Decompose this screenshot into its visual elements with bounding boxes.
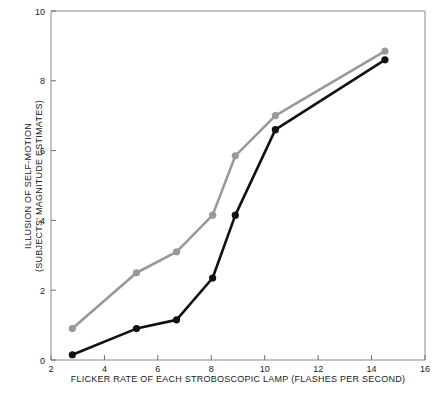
- y-tick-label: 10: [35, 7, 45, 17]
- y-tick-label: 0: [40, 356, 45, 366]
- data-point-marker: [133, 269, 140, 276]
- y-tick-label: 2: [40, 286, 45, 296]
- data-point-marker: [381, 48, 388, 55]
- chart-figure: 246810121416 0246810 FLICKER RATE OF EAC…: [0, 0, 443, 395]
- data-point-marker: [69, 351, 76, 358]
- x-tick-label: 8: [209, 364, 214, 374]
- y-axis-title-line1: ILLUSION OF SELF-MOTION: [23, 123, 33, 249]
- data-point-marker: [232, 152, 239, 159]
- data-point-marker: [209, 274, 216, 281]
- line-chart: 246810121416 0246810 FLICKER RATE OF EAC…: [0, 0, 443, 395]
- data-point-marker: [381, 56, 388, 63]
- data-point-marker: [272, 126, 279, 133]
- data-point-marker: [232, 212, 239, 219]
- data-point-marker: [173, 316, 180, 323]
- y-axis-title-line2: (SUBJECTS' MAGNITUDE ESTIMATES): [34, 100, 44, 272]
- data-point-marker: [173, 248, 180, 255]
- x-tick-label: 4: [102, 364, 107, 374]
- data-point-marker: [133, 325, 140, 332]
- data-point-marker: [69, 325, 76, 332]
- x-tick-label: 10: [260, 364, 270, 374]
- chart-background: [0, 0, 443, 395]
- x-tick-label: 6: [155, 364, 160, 374]
- x-axis-title: FLICKER RATE OF EACH STROBOSCOPIC LAMP (…: [71, 374, 405, 384]
- y-tick-label: 8: [40, 76, 45, 86]
- x-tick-label: 16: [420, 364, 430, 374]
- data-point-marker: [209, 212, 216, 219]
- x-tick-label: 12: [313, 364, 323, 374]
- x-tick-label: 2: [48, 364, 53, 374]
- data-point-marker: [272, 112, 279, 119]
- x-tick-label: 14: [367, 364, 377, 374]
